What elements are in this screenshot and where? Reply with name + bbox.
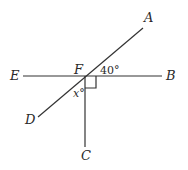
point-label-e: E <box>9 68 20 83</box>
right-angle-marker <box>85 76 96 88</box>
point-label-d: D <box>24 112 36 127</box>
angle-label-x: x° <box>73 87 85 100</box>
angle-label-40: 40° <box>100 64 120 77</box>
point-label-c: C <box>81 148 91 163</box>
point-label-f: F <box>73 62 84 77</box>
point-label-a: A <box>143 10 153 25</box>
point-label-b: B <box>165 68 176 83</box>
geometry-diagram: A B C D E F 40° x° <box>0 0 188 170</box>
line-DA <box>38 28 143 117</box>
